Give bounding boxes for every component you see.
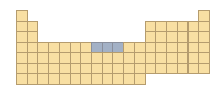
element-cell bbox=[134, 73, 146, 85]
element-cell bbox=[198, 63, 210, 75]
periodic-table-grid bbox=[16, 10, 209, 84]
